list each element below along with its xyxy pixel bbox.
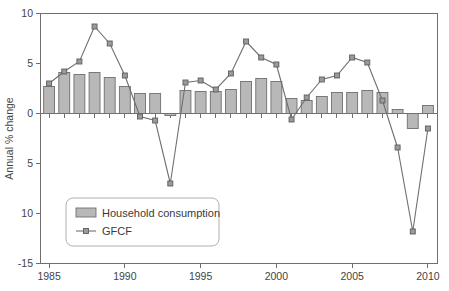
bar — [104, 78, 115, 114]
bar — [195, 92, 206, 114]
line-marker — [425, 126, 430, 131]
x-tick-label: 1985 — [37, 270, 61, 282]
bar — [119, 87, 130, 114]
line-marker — [228, 71, 233, 76]
x-tick-label: 2010 — [416, 270, 440, 282]
line-marker — [92, 24, 97, 29]
bar — [210, 92, 221, 114]
line-marker — [213, 87, 218, 92]
line-marker — [274, 62, 279, 67]
bar — [225, 90, 236, 114]
y-axis-title: Annual % change — [3, 97, 15, 179]
bar — [165, 114, 176, 116]
line-marker — [62, 69, 67, 74]
line-marker — [410, 229, 415, 234]
chart-container: 1050510-15Annual % change198519901995200… — [0, 0, 449, 291]
bar — [347, 93, 358, 114]
x-tick-label: 1990 — [113, 270, 137, 282]
line-marker — [183, 80, 188, 85]
y-tick-label: 10 — [21, 207, 33, 219]
legend-marker-gfcf — [84, 229, 89, 234]
y-axis: 1050510-15 — [18, 7, 40, 269]
x-tick-label: 2005 — [340, 270, 364, 282]
x-axis-minor-ticks — [49, 114, 428, 118]
bar — [241, 82, 252, 114]
bar — [59, 73, 70, 114]
line-marker — [289, 117, 294, 122]
line-marker — [77, 59, 82, 64]
line-marker — [319, 77, 324, 82]
line-marker — [198, 78, 203, 83]
y-tick-label: 10 — [21, 7, 33, 19]
x-tick-label: 1995 — [189, 270, 213, 282]
bar — [150, 94, 161, 114]
bar — [271, 82, 282, 114]
line-marker — [47, 81, 52, 86]
legend-label-gfcf: GFCF — [102, 225, 132, 237]
bar — [89, 73, 100, 114]
line-marker — [350, 55, 355, 60]
line-marker — [395, 145, 400, 150]
y-tick-label: -15 — [18, 257, 33, 269]
y-tick-label: 0 — [27, 107, 33, 119]
line-marker — [153, 118, 158, 123]
line-marker — [244, 39, 249, 44]
bar — [74, 75, 85, 114]
line-marker — [138, 114, 143, 119]
annual-percent-change-chart: 1050510-15Annual % change198519901995200… — [0, 0, 449, 291]
x-tick-label: 2000 — [265, 270, 289, 282]
legend-background — [66, 198, 219, 246]
legend-label-household-consumption: Household consumption — [102, 207, 220, 219]
line-marker — [380, 98, 385, 103]
bar — [392, 110, 403, 114]
chart-legend: Household consumptionGFCF — [66, 198, 220, 246]
bar — [407, 114, 418, 129]
y-tick-label: 5 — [27, 57, 33, 69]
line-marker — [365, 60, 370, 65]
bar — [332, 93, 343, 114]
line-marker — [122, 73, 127, 78]
legend-swatch-household-consumption — [76, 208, 96, 217]
y-tick-label: 5 — [27, 157, 33, 169]
x-axis-labels: 198519901995200020052010 — [37, 264, 439, 282]
line-marker — [334, 73, 339, 78]
bar — [44, 87, 55, 114]
line-marker — [259, 55, 264, 60]
bar — [316, 97, 327, 114]
line-marker — [107, 41, 112, 46]
line-marker — [168, 181, 173, 186]
line-marker — [304, 95, 309, 100]
bar — [256, 79, 267, 114]
bar — [362, 91, 373, 114]
bar — [135, 94, 146, 114]
bar — [422, 106, 433, 114]
